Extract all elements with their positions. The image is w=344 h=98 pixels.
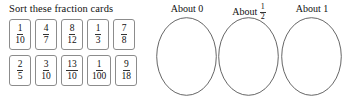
- target-about-0[interactable]: About 0: [155, 0, 219, 98]
- fraction-glyph: 110: [14, 24, 26, 45]
- card-2-5[interactable]: 25: [9, 55, 31, 86]
- target-about-half-oval[interactable]: [218, 17, 279, 96]
- card-1-3[interactable]: 13: [87, 19, 109, 50]
- target-about-0-label: About 0: [155, 2, 219, 15]
- fraction-card-row-1: 110478121378: [9, 19, 135, 50]
- sort-task-title: Sort these fraction cards: [9, 3, 113, 15]
- fraction-glyph: 1100: [91, 60, 107, 81]
- card-4-7[interactable]: 47: [35, 19, 57, 50]
- fraction-denominator: 12: [66, 35, 78, 45]
- fraction-numerator: 3: [43, 60, 50, 71]
- card-7-8[interactable]: 78: [113, 19, 135, 50]
- fraction-denominator: 10: [40, 71, 52, 81]
- target-about-1-value: 1: [323, 2, 328, 15]
- card-8-12[interactable]: 812: [61, 19, 83, 50]
- fraction-glyph: 812: [66, 24, 78, 45]
- target-about-1-prefix: About: [296, 2, 321, 15]
- fraction-numerator: 7: [121, 24, 128, 35]
- target-about-0-oval[interactable]: [156, 17, 217, 96]
- target-about-1[interactable]: About 1: [280, 0, 344, 98]
- fraction-glyph: 918: [121, 60, 133, 81]
- fraction-denominator: 3: [95, 35, 102, 45]
- fraction-denominator: 100: [91, 71, 107, 81]
- fraction-numerator: 2: [17, 60, 24, 71]
- fraction-numerator: 1: [17, 24, 24, 35]
- fraction-numerator: 13: [66, 60, 78, 71]
- sort-target-panel: About 0 About 1 2: [150, 0, 344, 98]
- card-3-10[interactable]: 310: [35, 55, 57, 86]
- fraction-glyph: 1310: [66, 60, 78, 81]
- fraction-denominator: 8: [121, 35, 128, 45]
- target-about-0-prefix: About: [171, 2, 196, 15]
- fraction-sort-panel: Sort these fraction cards 110478121378 2…: [0, 0, 150, 98]
- target-about-0-value: 0: [198, 2, 203, 15]
- card-1-100[interactable]: 1100: [87, 55, 111, 86]
- fraction-numerator: 4: [43, 24, 50, 35]
- fraction-card-row-2: 2531013101100918: [9, 55, 137, 86]
- card-9-18[interactable]: 918: [115, 55, 137, 86]
- fraction-glyph: 78: [121, 24, 128, 45]
- target-about-half[interactable]: About 1 2: [217, 0, 281, 98]
- target-about-1-oval[interactable]: [281, 17, 342, 96]
- fraction-glyph: 310: [40, 60, 52, 81]
- fraction-denominator: 10: [14, 35, 26, 45]
- fraction-numerator: 9: [123, 60, 130, 71]
- target-about-half-prefix: About: [232, 5, 257, 18]
- fraction-denominator: 10: [66, 71, 78, 81]
- card-13-10[interactable]: 1310: [61, 55, 83, 86]
- fraction-denominator: 5: [17, 71, 24, 81]
- fraction-numerator: 8: [69, 24, 76, 35]
- fraction-glyph: 25: [17, 60, 24, 81]
- card-1-10[interactable]: 110: [9, 19, 31, 50]
- fraction-glyph: 13: [95, 24, 102, 45]
- fraction-denominator: 18: [121, 71, 133, 81]
- fraction-glyph: 47: [43, 24, 50, 45]
- fraction-numerator: 1: [96, 60, 103, 71]
- fraction-denominator: 7: [43, 35, 50, 45]
- fraction-numerator: 1: [95, 24, 102, 35]
- target-about-1-label: About 1: [280, 2, 344, 15]
